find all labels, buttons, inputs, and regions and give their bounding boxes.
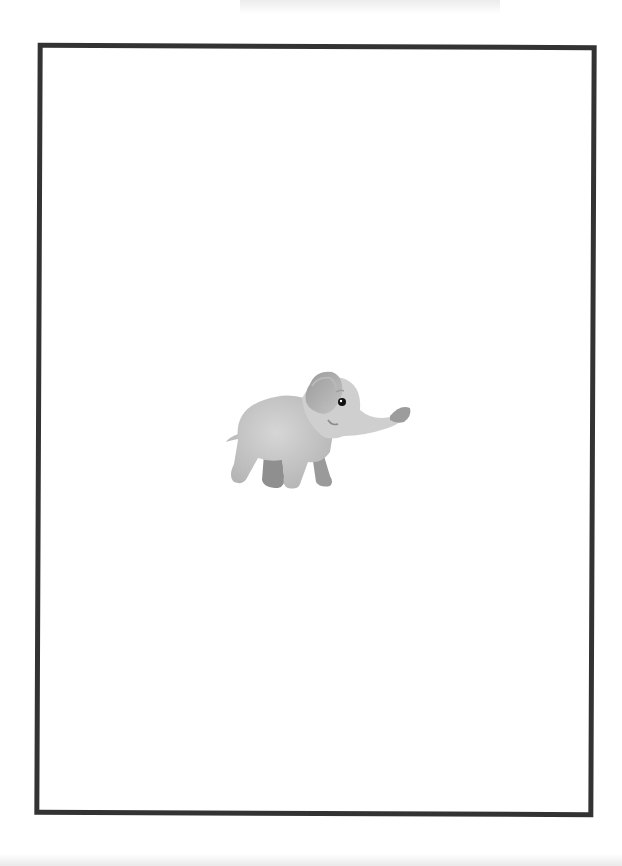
scan-bleed-top xyxy=(240,0,500,14)
elephant-illustration xyxy=(224,364,414,494)
scan-bleed-bottom xyxy=(0,854,622,866)
